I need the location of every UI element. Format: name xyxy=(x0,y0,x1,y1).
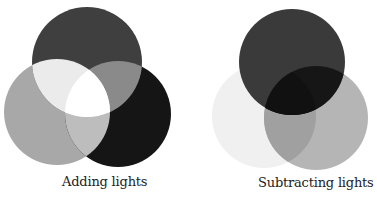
subtracting-lights-figure xyxy=(212,9,368,170)
color-mixing-diagram xyxy=(0,0,377,201)
adding-lights-figure xyxy=(4,7,171,167)
subtracting-lights-caption: Subtracting lights xyxy=(258,175,374,190)
adding-lights-caption: Adding lights xyxy=(62,174,147,189)
